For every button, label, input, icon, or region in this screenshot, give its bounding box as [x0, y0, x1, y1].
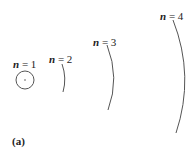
orbit-arc-n3 [107, 45, 114, 110]
label-n3: n = 3 [93, 36, 116, 48]
orbit-arc-n4 [173, 20, 185, 133]
figure-caption: (a) [12, 135, 25, 147]
label-n2: n = 2 [49, 53, 72, 65]
orbit-diagram [0, 0, 196, 155]
orbit-arc-n2 [62, 64, 65, 92]
nucleus [24, 79, 26, 81]
label-n4: n = 4 [160, 10, 183, 22]
label-n1: n = 1 [13, 58, 36, 70]
